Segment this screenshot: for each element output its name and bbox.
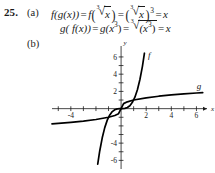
line2-rhs: x xyxy=(166,22,171,34)
line2-equals-2: = xyxy=(122,22,131,34)
line1-equals-1: = xyxy=(79,8,88,20)
line1-equals-2: = xyxy=(116,8,125,20)
curve-label-g: g xyxy=(197,81,202,91)
radicand-3: (x3) xyxy=(138,20,156,34)
line2-lhs: g( f(x)) xyxy=(60,22,91,34)
line2-term1: g(x xyxy=(100,22,114,34)
close-paren-2: ) xyxy=(146,10,150,21)
x-axis-label: x xyxy=(210,105,215,113)
y-tick-label: 2 xyxy=(113,87,117,96)
problem-number: 25. xyxy=(4,6,18,18)
x-tick-label: 4 xyxy=(169,111,173,120)
x-tick-label: 6 xyxy=(195,111,199,120)
line1-rhs: x xyxy=(163,8,168,20)
x-tick-label: 2 xyxy=(144,111,148,120)
open-paren-1: ( xyxy=(92,10,96,21)
line1-lhs: f(g(x)) xyxy=(51,8,79,20)
line2-equals-1: = xyxy=(91,22,100,34)
cube-root-3: 3√(x3) xyxy=(131,20,157,34)
y-tick-label: 4 xyxy=(113,70,117,79)
y-tick-label: 6 xyxy=(113,53,117,62)
solution-line-2: g( f(x))=g(x3)=3√(x3)=x xyxy=(60,20,171,34)
part-a-label: (a) xyxy=(27,7,39,18)
exercise-figure: 25. (a) (b) f(g(x))=f(3√x)=(3√x)3=x g( f… xyxy=(0,0,215,173)
radical-sign-1: √ xyxy=(99,6,106,17)
curve-label-f: f xyxy=(148,50,152,60)
part-b-label: (b) xyxy=(27,38,39,49)
y-axis-label: y xyxy=(123,40,128,47)
radicand-3-close: ) xyxy=(152,22,156,34)
line1-equals-3: = xyxy=(154,8,163,20)
open-paren-2: ( xyxy=(126,10,130,21)
y-tick-label: -6 xyxy=(111,156,117,165)
x-axis-arrow xyxy=(203,107,207,111)
line2-term1-close: ) xyxy=(118,22,122,34)
y-tick-label: -4 xyxy=(111,139,117,148)
coordinate-plane: -4246642-4-6xyfg xyxy=(50,40,215,173)
radical-sign-3: √ xyxy=(133,20,140,31)
radicand-3-open: (x xyxy=(139,22,148,34)
close-paren-1: ) xyxy=(112,10,116,21)
graph-figure: -4246642-4-6xyfg xyxy=(50,40,215,173)
radical-sign-2: √ xyxy=(133,6,140,17)
line2-equals-3: = xyxy=(157,22,166,34)
solution-line-1: f(g(x))=f(3√x)=(3√x)3=x xyxy=(51,6,168,21)
x-tick-label: -4 xyxy=(68,111,74,120)
cube-root-1: 3√x xyxy=(96,6,111,20)
